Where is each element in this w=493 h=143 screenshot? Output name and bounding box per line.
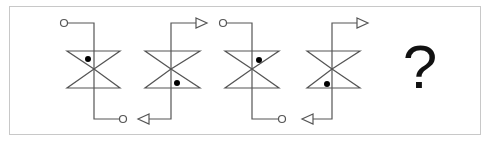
arrow-right-icon <box>196 18 207 28</box>
dot-icon <box>174 80 180 86</box>
figure-2 <box>138 18 207 124</box>
question-mark: ? <box>400 36 440 98</box>
terminal-circle-icon <box>220 20 227 27</box>
figure-4 <box>302 18 368 124</box>
terminal-circle-icon <box>279 116 286 123</box>
dot-icon <box>324 81 330 87</box>
dot-icon <box>85 56 91 62</box>
figure-1 <box>61 20 127 123</box>
terminal-circle-icon <box>61 20 68 27</box>
terminal-circle-icon <box>120 116 127 123</box>
arrow-left-icon <box>302 114 313 124</box>
arrow-right-icon <box>357 18 368 28</box>
figure-3 <box>220 20 286 123</box>
arrow-left-icon <box>138 114 149 124</box>
dot-icon <box>256 57 262 63</box>
